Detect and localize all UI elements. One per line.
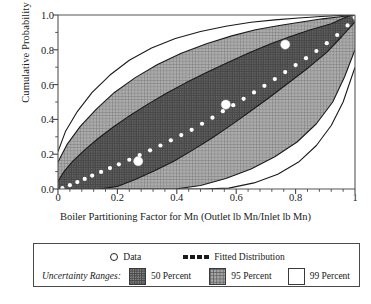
- legend-label-fitted: Fitted Distribution: [214, 252, 284, 262]
- plot-area-wrapper: Cumulative Probability 1.0 0.8 0.6 0.4 0…: [0, 0, 371, 232]
- legend-item-fitted: Fitted Distribution: [183, 252, 284, 262]
- cumulative-probability-plot: [0, 0, 371, 232]
- legend-row-uncertainty: Uncertainty Ranges: 50 Percent 95 Percen…: [34, 265, 361, 287]
- legend-item-95: 95 Percent: [209, 268, 271, 285]
- legend-uncertainty-title: Uncertainty Ranges:: [42, 271, 121, 281]
- dotted-line-icon: [183, 255, 209, 259]
- legend-item-data: Data: [110, 252, 141, 262]
- swatch-50-percent-icon: [129, 268, 146, 285]
- swatch-99-percent-icon: [288, 268, 305, 285]
- legend-label-95: 95 Percent: [231, 271, 271, 281]
- swatch-95-percent-icon: [209, 268, 226, 285]
- legend-row-primary: Data Fitted Distribution: [34, 248, 361, 265]
- legend-label-50: 50 Percent: [151, 271, 191, 281]
- legend-box: Data Fitted Distribution Uncertainty Ran…: [33, 243, 360, 287]
- data-circle-icon: [110, 253, 118, 261]
- legend-item-50: 50 Percent: [129, 268, 191, 285]
- legend-item-99: 99 Percent: [288, 268, 350, 285]
- legend-label-data: Data: [123, 252, 141, 262]
- legend-label-99: 99 Percent: [310, 271, 350, 281]
- figure-root: Cumulative Probability 1.0 0.8 0.6 0.4 0…: [0, 0, 371, 304]
